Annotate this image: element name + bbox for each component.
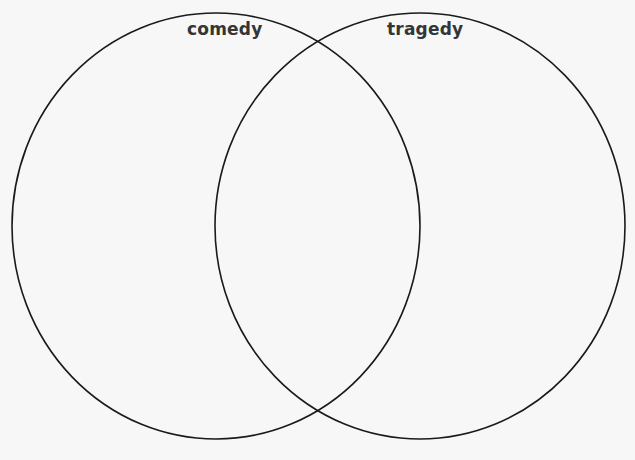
comedy-circle bbox=[12, 13, 420, 439]
tragedy-label: tragedy bbox=[387, 19, 463, 39]
comedy-label: comedy bbox=[187, 19, 262, 39]
venn-diagram: comedy tragedy bbox=[0, 0, 635, 460]
venn-circles bbox=[0, 0, 635, 460]
